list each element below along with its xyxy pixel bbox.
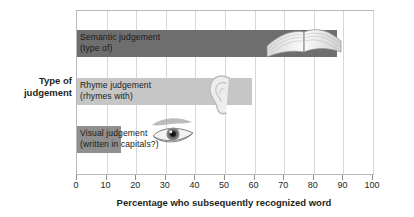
bar-series: Semantic judgement (type of) Rhyme judge… (77, 11, 373, 174)
y-axis-title-line1: Type of (39, 75, 72, 86)
x-tick-label-10: 10 (101, 180, 111, 190)
bar-chart: Type of judgement Semantic judgement (ty… (0, 0, 414, 217)
x-tick-label-70: 70 (278, 180, 288, 190)
x-tick-label-80: 80 (308, 180, 318, 190)
plot-area: Semantic judgement (type of) Rhyme judge… (76, 10, 374, 175)
bar-label-semantic-line1: Semantic judgement (80, 32, 160, 42)
x-tick-label-100: 100 (364, 180, 379, 190)
bar-label-visual-line1: Visual judgement (80, 128, 147, 138)
x-axis-title: Percentage who subsequently recognized w… (0, 197, 414, 208)
x-tick-label-90: 90 (337, 180, 347, 190)
bar-label-rhyme-line1: Rhyme judgement (80, 80, 151, 90)
bar-label-visual: Visual judgement (written in capitals?) (80, 128, 159, 150)
x-tick-label-60: 60 (249, 180, 259, 190)
y-axis-title: Type of judgement (6, 75, 72, 98)
y-axis-title-line2: judgement (24, 87, 72, 98)
bar-label-rhyme: Rhyme judgement (rhymes with) (80, 80, 151, 102)
x-tick-label-30: 30 (160, 180, 170, 190)
x-tick-label-40: 40 (189, 180, 199, 190)
gridline-100 (373, 11, 374, 174)
x-axis: 0102030405060708090100 (76, 175, 374, 181)
x-tick-label-20: 20 (130, 180, 140, 190)
x-tick-label-0: 0 (73, 180, 78, 190)
bar-label-visual-line2: (written in capitals?) (80, 139, 159, 150)
bar-label-semantic: Semantic judgement (type of) (80, 32, 160, 54)
bar-label-rhyme-line2: (rhymes with) (80, 91, 151, 102)
x-axis-title-text: Percentage who subsequently recognized w… (83, 197, 332, 208)
x-tick-label-50: 50 (219, 180, 229, 190)
bar-label-semantic-line2: (type of) (80, 43, 160, 54)
